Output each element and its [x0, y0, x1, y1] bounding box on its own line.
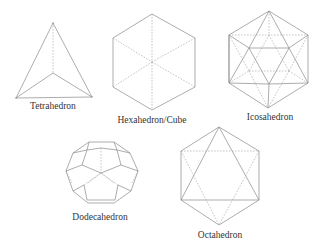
- octahedron-drawing: [181, 127, 259, 225]
- dodecahedron-drawing: [66, 142, 138, 203]
- octahedron-label: Octahedron: [198, 231, 242, 241]
- hexahedron-label: Hexahedron/Cube: [117, 116, 186, 126]
- icosahedron-drawing: [229, 11, 308, 108]
- hexahedron-drawing: [113, 14, 195, 110]
- dodecahedron-label: Dodecahedron: [72, 213, 127, 223]
- tetrahedron-label: Tetrahedron: [30, 102, 76, 112]
- icosahedron-label: Icosahedron: [247, 113, 293, 123]
- tetrahedron-drawing: [15, 22, 93, 99]
- platonic-solids-diagram: Tetrahedron Hexahedron/Cube Icosahedron …: [0, 0, 317, 247]
